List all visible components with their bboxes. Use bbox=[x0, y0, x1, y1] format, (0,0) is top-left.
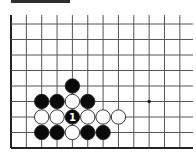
stone-disc bbox=[111, 110, 125, 124]
white-stone bbox=[65, 125, 79, 139]
stone-disc bbox=[96, 110, 110, 124]
stone-disc bbox=[35, 94, 49, 108]
white-stone bbox=[35, 110, 49, 124]
black-stone bbox=[50, 94, 64, 108]
stone-disc bbox=[65, 79, 79, 93]
stone-disc bbox=[65, 125, 79, 139]
move-number-label: 1 bbox=[69, 112, 76, 123]
white-stone bbox=[111, 110, 125, 124]
stone-disc bbox=[81, 94, 95, 108]
stone-disc bbox=[81, 125, 95, 139]
black-stone bbox=[96, 125, 110, 139]
black-stone bbox=[35, 125, 49, 139]
star-point bbox=[147, 100, 151, 104]
stone-disc bbox=[50, 110, 64, 124]
stone-disc bbox=[50, 94, 64, 108]
white-stone bbox=[96, 110, 110, 124]
white-stone bbox=[65, 94, 79, 108]
star-points bbox=[147, 100, 151, 104]
stone-disc bbox=[96, 125, 110, 139]
stone-disc bbox=[50, 125, 64, 139]
go-board: 1 bbox=[0, 0, 196, 159]
stone-disc bbox=[35, 110, 49, 124]
white-stone bbox=[50, 110, 64, 124]
black-stone bbox=[81, 125, 95, 139]
black-stone bbox=[50, 125, 64, 139]
black-stone bbox=[65, 79, 79, 93]
black-stone: 1 bbox=[65, 110, 79, 124]
white-stone bbox=[81, 110, 95, 124]
black-stone bbox=[81, 94, 95, 108]
stone-disc bbox=[65, 94, 79, 108]
stones: 1 bbox=[35, 79, 126, 140]
stone-disc bbox=[35, 125, 49, 139]
black-stone bbox=[35, 94, 49, 108]
stone-disc bbox=[81, 110, 95, 124]
